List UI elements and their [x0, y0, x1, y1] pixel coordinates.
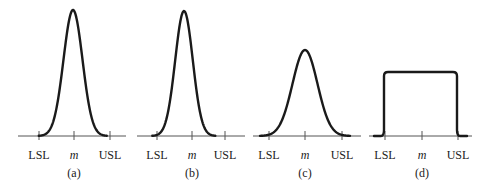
usl-label: USL: [99, 148, 122, 162]
lsl-label: LSL: [28, 148, 49, 162]
usl-label: USL: [447, 148, 470, 162]
mean-label: m: [188, 148, 197, 162]
distribution-curve: [374, 72, 467, 136]
panel-d: LSL m USL (d): [369, 72, 472, 180]
mean-label: m: [70, 148, 79, 162]
panel-c: LSL m USL (c): [253, 50, 361, 180]
mean-label: m: [418, 148, 427, 162]
lsl-label: LSL: [258, 148, 279, 162]
distribution-curve: [39, 10, 107, 136]
panel-caption: (a): [67, 166, 80, 180]
lsl-label: LSL: [374, 148, 395, 162]
mean-label: m: [301, 148, 310, 162]
process-capability-figure: LSL m USL (a) LSL m USL (b) LSL m USL (c…: [0, 0, 486, 185]
usl-label: USL: [331, 148, 354, 162]
panel-caption: (c): [298, 166, 311, 180]
distribution-curve: [260, 50, 350, 136]
panel-a: LSL m USL (a): [18, 10, 126, 180]
panel-b: LSL m USL (b): [137, 11, 245, 180]
panel-caption: (b): [185, 166, 199, 180]
lsl-label: LSL: [146, 148, 167, 162]
usl-label: USL: [214, 148, 237, 162]
distribution-curve: [152, 11, 215, 136]
panel-caption: (d): [415, 166, 429, 180]
